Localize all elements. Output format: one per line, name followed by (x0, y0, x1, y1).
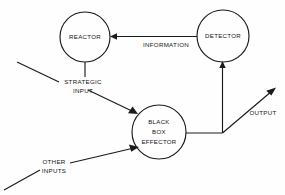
detector-label: DETECTOR (205, 32, 241, 39)
other-inputs-label-line2: INPUTS (42, 167, 67, 174)
strategic-input-line (88, 90, 134, 112)
black-box-effector-label-line2: BOX (152, 128, 166, 135)
strategic-input-label-line1: STRATEGIC (64, 78, 102, 85)
black-box-effector-label-line3: EFFECTOR (141, 138, 176, 145)
edge-other-inputs-to-black-box (70, 145, 139, 163)
diagram-canvas-container: REACTOR DETECTOR BLACK BOX EFFECTOR INFO… (0, 0, 285, 195)
node-black-box-effector[interactable]: BLACK BOX EFFECTOR (132, 105, 186, 159)
black-box-effector-label-line1: BLACK (148, 118, 169, 125)
other-inputs-incoming-line (4, 170, 40, 190)
edge-external-to-other-inputs (4, 170, 40, 190)
cybernetic-feedback-diagram: REACTOR DETECTOR BLACK BOX EFFECTOR INFO… (0, 0, 285, 195)
strategic-input-incoming-line (17, 62, 59, 82)
information-arrowhead-icon (110, 33, 117, 40)
strategic-input-label: STRATEGIC INPUT (64, 78, 102, 94)
edge-junction-to-detector (219, 61, 225, 133)
edge-external-to-strategic-input (17, 62, 59, 82)
edge-strategic-input-to-black-box (88, 90, 138, 114)
other-inputs-label-line1: OTHER (42, 158, 65, 165)
other-inputs-line (70, 148, 134, 163)
output-label: OUTPUT (249, 109, 276, 116)
node-reactor[interactable]: REACTOR (60, 12, 110, 62)
strategic-input-label-line2: INPUT (73, 87, 93, 94)
node-detector[interactable]: DETECTOR (197, 10, 249, 62)
edge-detector-to-reactor (110, 33, 197, 40)
information-label: INFORMATION (143, 41, 189, 48)
reactor-label: REACTOR (69, 33, 101, 40)
other-inputs-label: OTHER INPUTS (42, 158, 67, 174)
